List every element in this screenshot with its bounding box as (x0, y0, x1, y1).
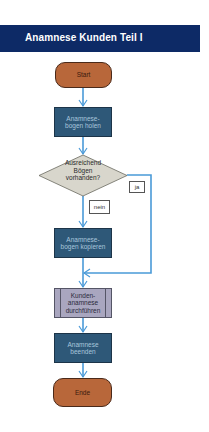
end-anamnesis-node: Anamnese beenden (54, 333, 112, 363)
conduct-anamnesis-label: Kunden- anamnese durchführen (66, 292, 101, 315)
end-anamnesis-label: Anamnese beenden (67, 341, 98, 356)
get-forms-node: Anamnese- bogen holen (54, 107, 112, 137)
end-node: Ende (53, 378, 112, 407)
yes-label: ja (129, 181, 145, 193)
start-label: Start (77, 71, 91, 79)
end-label: Ende (75, 389, 90, 397)
no-label: nein (89, 200, 110, 214)
get-forms-label: Anamnese- bogen holen (65, 115, 101, 130)
start-node: Start (55, 62, 112, 88)
conduct-anamnesis-node: Kunden- anamnese durchführen (54, 288, 112, 318)
decision-label: Ausreichend Bögen vorhanden? (40, 159, 126, 182)
copy-forms-node: Anamnese- bogen kopieren (54, 228, 112, 258)
copy-forms-label: Anamnese- bogen kopieren (61, 236, 106, 251)
